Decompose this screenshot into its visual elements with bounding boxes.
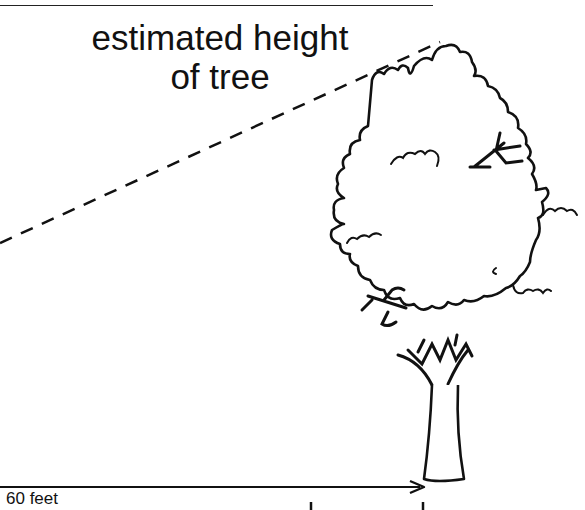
tree-crown <box>331 45 548 310</box>
distance-label: 60 feet <box>6 489 58 509</box>
tree-branches <box>398 335 472 385</box>
crown-detail <box>543 208 577 215</box>
tree-trunk <box>424 385 464 481</box>
tree-illustration <box>0 0 585 510</box>
